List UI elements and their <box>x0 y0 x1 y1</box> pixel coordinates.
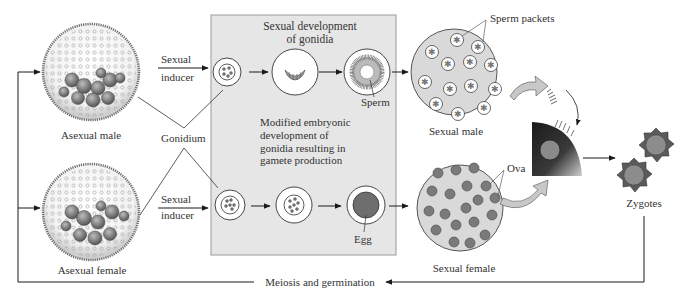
male-gonidium-stage-1 <box>213 58 241 86</box>
label-sexual-inducer-top-2: inducer <box>161 71 194 84</box>
ova-release-arrow <box>500 180 548 208</box>
female-gonidium-stage-2 <box>276 187 312 223</box>
sperm-release-arrow <box>510 76 548 100</box>
sexual-male-spheroid: ✱✱✱ ✱✱✱ ✱✱✱ ✱✱✱ ✱ <box>411 20 502 121</box>
label-gonidium: Gonidium <box>161 132 206 145</box>
fertilization-egg <box>532 120 582 176</box>
svg-text:✱: ✱ <box>453 35 461 45</box>
asexual-male-spheroid <box>43 24 139 120</box>
modified-development-line-4: gamete production <box>260 154 342 167</box>
label-ova: Ova <box>507 162 525 175</box>
zygote-2 <box>617 158 652 192</box>
zygote-1 <box>639 128 674 162</box>
panel-title-line-1: Sexual development <box>250 20 370 33</box>
label-sperm-packets: Sperm packets <box>490 12 554 25</box>
label-sexual-inducer-bottom-1: Sexual <box>161 193 191 206</box>
svg-text:✱: ✱ <box>480 103 488 113</box>
female-gonidium-stage-1 <box>215 190 245 220</box>
svg-text:✱: ✱ <box>454 109 462 119</box>
label-sperm: Sperm <box>361 96 390 109</box>
modified-development-line-2: development of <box>260 129 329 142</box>
svg-text:✱: ✱ <box>421 77 429 87</box>
modified-development-line-1: Modified embryonic <box>260 116 351 129</box>
label-sexual-male: Sexual male <box>420 125 492 138</box>
svg-text:✱: ✱ <box>491 84 499 94</box>
sperm-packet-released <box>547 89 557 104</box>
sperm-approach-arrow <box>566 90 578 125</box>
svg-text:✱: ✱ <box>466 57 474 67</box>
label-asexual-female: Asexual female <box>47 264 137 277</box>
label-meiosis-germination: Meiosis and germination <box>256 276 384 289</box>
label-zygotes: Zygotes <box>616 197 672 210</box>
label-asexual-male: Asexual male <box>55 129 127 142</box>
svg-text:✱: ✱ <box>467 81 475 91</box>
svg-text:✱: ✱ <box>446 84 454 94</box>
sexual-female-spheroid <box>417 163 504 251</box>
label-sexual-inducer-bottom-2: inducer <box>161 209 194 222</box>
svg-text:✱: ✱ <box>487 60 495 70</box>
label-sexual-female: Sexual female <box>424 262 504 275</box>
svg-text:✱: ✱ <box>444 59 452 69</box>
label-sexual-inducer-top-1: Sexual <box>161 53 191 66</box>
asexual-female-spheroid <box>43 164 139 260</box>
male-gonidium-stage-2 <box>272 49 318 95</box>
svg-text:✱: ✱ <box>428 47 436 57</box>
label-egg: Egg <box>354 233 372 246</box>
svg-text:✱: ✱ <box>474 42 482 52</box>
panel-title-line-2: of gonidia <box>250 33 370 46</box>
svg-text:✱: ✱ <box>432 99 440 109</box>
